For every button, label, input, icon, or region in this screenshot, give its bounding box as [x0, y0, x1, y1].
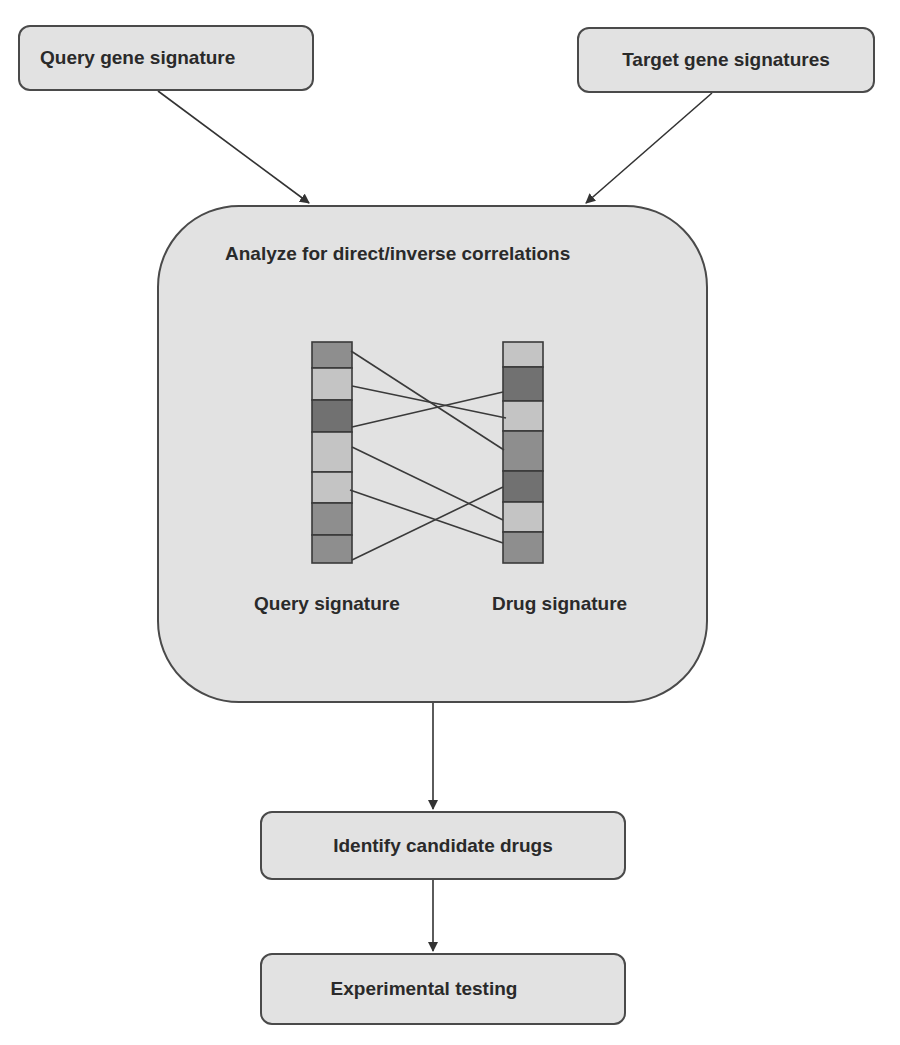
- drug-signature-label: Drug signature: [492, 593, 627, 615]
- query-cell-4: [312, 432, 352, 472]
- analyze-title: Analyze for direct/inverse correlations: [225, 243, 570, 265]
- drug-cell-5: [503, 471, 543, 502]
- query-cell-6: [312, 503, 352, 535]
- experimental-testing-node: Experimental testing: [260, 953, 626, 1025]
- query-cell-5: [312, 472, 352, 503]
- query-cell-3: [312, 400, 352, 432]
- experimental-testing-label: Experimental testing: [331, 978, 518, 1000]
- connection-line: [352, 487, 503, 560]
- drug-cell-2: [503, 367, 543, 401]
- drug-cell-7: [503, 532, 543, 563]
- connection-line: [352, 392, 503, 427]
- connection-line: [352, 447, 503, 520]
- query-cell-2: [312, 368, 352, 400]
- connection-line: [351, 351, 504, 450]
- identify-candidate-drugs-label: Identify candidate drugs: [333, 835, 553, 857]
- drug-cell-6: [503, 502, 543, 532]
- query-gene-signature-node: Query gene signature: [18, 25, 314, 91]
- drug-cell-4: [503, 431, 543, 471]
- analyze-correlations-node: Analyze for direct/inverse correlations: [157, 205, 708, 703]
- connection-line: [352, 386, 506, 418]
- query-gene-signature-label: Query gene signature: [40, 47, 235, 69]
- gene-connection-lines: [350, 351, 506, 560]
- query-cell-7: [312, 535, 352, 563]
- drug-cell-1: [503, 342, 543, 367]
- drug-cell-3: [503, 401, 543, 431]
- query-cell-1: [312, 342, 352, 368]
- drug-signature-bar: [503, 342, 543, 563]
- query-signature-label: Query signature: [254, 593, 400, 615]
- arrow-target-to-analyze: [586, 93, 712, 203]
- target-gene-signatures-node: Target gene signatures: [577, 27, 875, 93]
- signature-comparison-graphic: [159, 207, 710, 705]
- query-signature-bar: [312, 342, 352, 563]
- connection-line: [350, 490, 503, 543]
- identify-candidate-drugs-node: Identify candidate drugs: [260, 811, 626, 880]
- target-gene-signatures-label: Target gene signatures: [622, 49, 830, 71]
- arrow-query-to-analyze: [158, 91, 309, 203]
